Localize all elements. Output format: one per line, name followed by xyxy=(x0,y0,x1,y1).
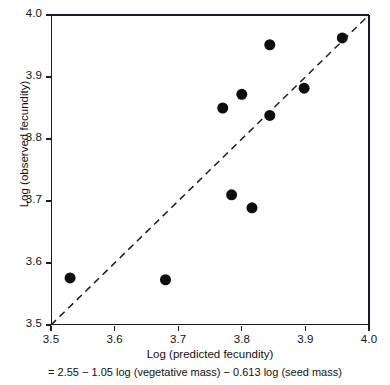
x-tick-label: 3.6 xyxy=(95,333,135,345)
x-axis-label: Log (predicted fecundity) xyxy=(51,348,369,360)
y-tick-mark xyxy=(46,262,51,263)
plot-area xyxy=(51,15,369,325)
y-tick-mark xyxy=(46,200,51,201)
y-tick-label: 3.6 xyxy=(2,255,42,267)
y-tick-label: 3.5 xyxy=(2,317,42,329)
y-axis-label: Log (observed fecundity) xyxy=(18,44,30,244)
x-tick-mark xyxy=(368,326,369,331)
x-tick-mark xyxy=(178,326,179,331)
x-tick-mark xyxy=(50,326,51,331)
y-tick-mark xyxy=(46,14,51,15)
x-tick-label: 3.7 xyxy=(158,333,198,345)
equation-caption: = 2.55 − 1.05 log (vegetative mass) − 0.… xyxy=(0,366,390,378)
x-tick-label: 4.0 xyxy=(349,333,389,345)
x-tick-mark xyxy=(241,326,242,331)
y-tick-mark xyxy=(46,76,51,77)
right-axis-spine xyxy=(368,15,370,326)
scatter-plot-figure: 3.53.63.73.83.94.0 3.53.63.73.83.94.0 Lo… xyxy=(0,0,390,385)
x-tick-label: 3.5 xyxy=(31,333,71,345)
y-tick-mark xyxy=(46,138,51,139)
x-tick-mark xyxy=(114,326,115,331)
x-tick-label: 3.9 xyxy=(285,333,325,345)
x-tick-mark xyxy=(305,326,306,331)
top-axis-spine xyxy=(51,14,369,16)
y-tick-label: 4.0 xyxy=(2,7,42,19)
x-tick-label: 3.8 xyxy=(222,333,262,345)
